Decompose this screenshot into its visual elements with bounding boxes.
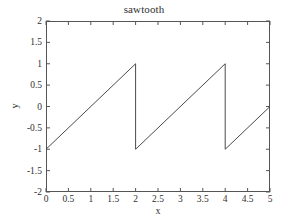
x-tick-label: 3 [178, 194, 183, 204]
x-tick-label: 1 [88, 194, 93, 204]
y-tick-label: -1.5 [27, 166, 42, 176]
x-tick-label: 5 [268, 194, 273, 204]
sawtooth-waveform [46, 64, 270, 150]
y-tick-label: 1 [37, 59, 42, 69]
plot-area [46, 21, 270, 192]
plot-svg [46, 21, 270, 192]
y-tick-label: 2 [37, 16, 42, 26]
x-axis-label: x [46, 205, 270, 216]
y-tick-label: -0.5 [27, 123, 42, 133]
y-axis-label: y [9, 99, 21, 113]
figure-canvas: sawtooth 21.510.50-0.5-1-1.5-2 00.511.52… [0, 0, 288, 221]
x-tick-label: 4 [223, 194, 228, 204]
y-tick-label: -2 [34, 187, 42, 197]
y-tick-label: 1.5 [30, 37, 42, 47]
y-axis-tick-labels: 21.510.50-0.5-1-1.5-2 [0, 21, 42, 192]
x-tick-label: 0 [44, 194, 49, 204]
x-tick-label: 4.5 [242, 194, 254, 204]
x-tick-label: 2 [133, 194, 138, 204]
y-tick-label: -1 [34, 144, 42, 154]
y-tick-label: 0 [37, 102, 42, 112]
x-tick-label: 0.5 [62, 194, 74, 204]
axis-ticks [46, 21, 270, 192]
x-tick-label: 1.5 [107, 194, 119, 204]
x-tick-label: 3.5 [197, 194, 209, 204]
y-tick-label: 0.5 [30, 80, 42, 90]
chart-title: sawtooth [0, 3, 288, 16]
x-tick-label: 2.5 [152, 194, 164, 204]
